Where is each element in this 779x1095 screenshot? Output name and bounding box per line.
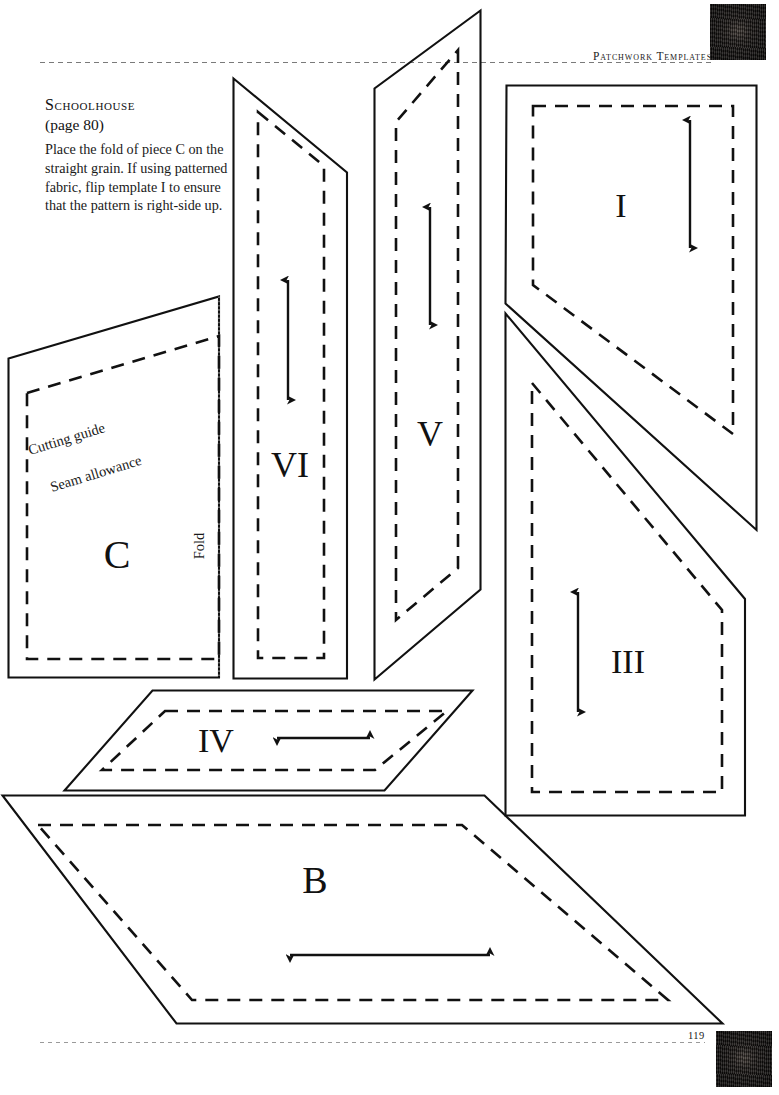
template-piece-v[interactable]: V [375,11,481,680]
fold-annotation: Fold [191,532,207,559]
page-number: 119 [688,1030,705,1041]
instruction-text: Place the fold of piece C on the straigh… [45,140,235,215]
piece-c-label: C [104,532,131,577]
piece-iv-cutting-line [65,691,473,791]
piece-iii-seam-line [532,383,722,792]
piece-i-seam-line [533,106,733,434]
piece-i-label: I [615,187,626,224]
piece-v-label: V [417,414,443,454]
page-reference: (page 80) [45,116,235,134]
piece-iii-cutting-line [506,314,746,816]
page-title: Schoolhouse [45,96,235,114]
piece-b-label: B [302,859,327,901]
fabric-swatch-bottom-right [716,1031,772,1087]
piece-vi-seam-line [258,112,324,658]
piece-b-seam-line [38,825,668,1000]
template-piece-iv[interactable]: IV [65,691,473,791]
template-piece-iii[interactable]: III [506,314,746,816]
piece-iv-label: IV [198,722,234,759]
piece-iii-label: III [611,643,645,680]
cutting-guide-annotation: Cutting guide [26,419,107,458]
piece-iv-seam-line [102,711,447,770]
instruction-block: Schoolhouse (page 80) Place the fold of … [45,96,235,215]
piece-v-cutting-line [375,11,481,680]
piece-vi-cutting-line [234,79,348,679]
piece-c-seam-line [27,336,219,659]
piece-b-cutting-line [3,796,723,1024]
running-head: Patchwork Templates [0,50,712,62]
fabric-swatch-top-right [710,4,766,60]
seam-allowance-annotation: Seam allowance [48,452,143,495]
template-piece-b[interactable]: B [3,796,723,1024]
template-piece-vi[interactable]: VI [234,79,348,679]
piece-v-seam-line [396,50,458,620]
template-piece-c[interactable]: C Cutting guide Seam allowance Fold [9,297,220,678]
piece-vi-label: VI [271,445,309,485]
template-page: C Cutting guide Seam allowance Fold VI V… [0,0,779,1095]
piece-c-cutting-line [9,297,220,678]
